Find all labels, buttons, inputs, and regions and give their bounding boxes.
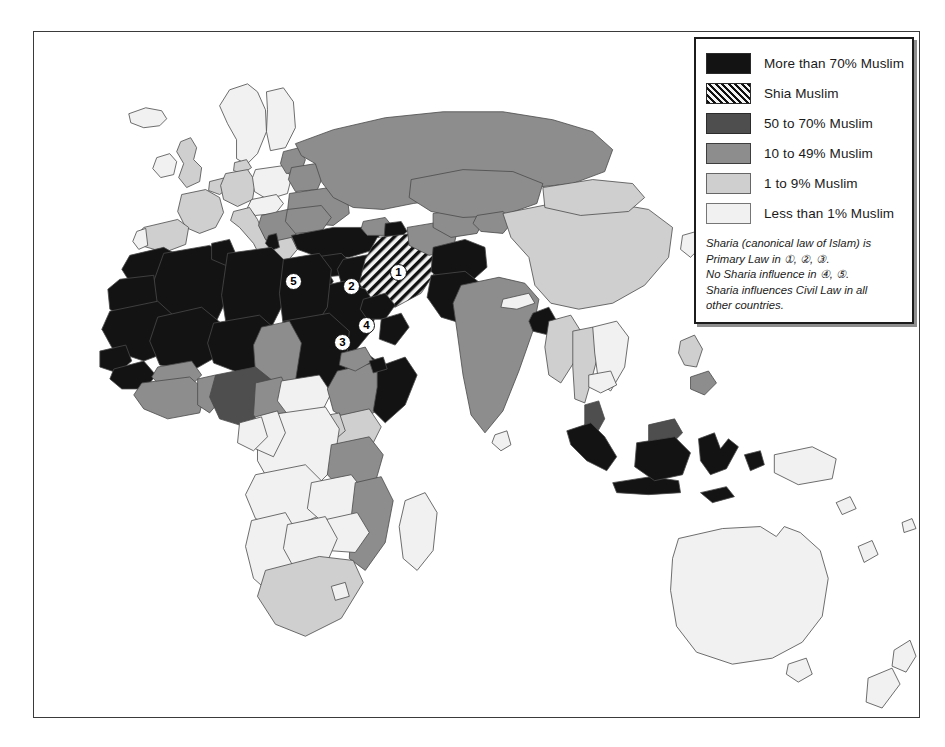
legend-row-50-to-70: 50 to 70% Muslim (706, 108, 902, 138)
legend-row-less-than-1: Less than 1% Muslim (706, 198, 902, 228)
map-marker-5[interactable]: 5 (285, 273, 302, 290)
legend-row-1-to-9: 1 to 9% Muslim (706, 168, 902, 198)
legend-row-more-than-70: More than 70% Muslim (706, 48, 902, 78)
map-marker-3[interactable]: 3 (334, 334, 351, 351)
legend-label-10-to-49: 10 to 49% Muslim (764, 146, 873, 161)
legend-swatch-shia (706, 83, 751, 104)
map-frame: 1 2 3 4 5 More than 70% Muslim Shia Musl… (33, 31, 920, 718)
legend-label-50-to-70: 50 to 70% Muslim (764, 116, 873, 131)
legend-note-line-1: Sharia (canonical law of Islam) is (706, 236, 902, 252)
map-marker-1[interactable]: 1 (390, 264, 407, 281)
legend-row-10-to-49: 10 to 49% Muslim (706, 138, 902, 168)
map-marker-4[interactable]: 4 (358, 317, 375, 334)
legend-note: Sharia (canonical law of Islam) is Prima… (706, 234, 902, 314)
region-mongolia (543, 180, 645, 216)
legend-swatch-50-to-70 (706, 113, 751, 134)
region-germany (221, 170, 256, 207)
legend-note-line-5: other countries. (706, 298, 902, 314)
legend-swatch-1-to-9 (706, 173, 751, 194)
map-legend: More than 70% Muslim Shia Muslim 50 to 7… (694, 37, 914, 324)
legend-swatch-more-than-70 (706, 53, 751, 74)
legend-label-less-than-1: Less than 1% Muslim (764, 206, 894, 221)
map-marker-2[interactable]: 2 (343, 278, 360, 295)
map-page: 1 2 3 4 5 More than 70% Muslim Shia Musl… (0, 0, 945, 747)
legend-swatch-less-than-1 (706, 203, 751, 224)
legend-note-line-4: Sharia influences Civil Law in all (706, 283, 902, 299)
legend-swatch-10-to-49 (706, 143, 751, 164)
legend-label-more-than-70: More than 70% Muslim (764, 56, 904, 71)
legend-label-shia: Shia Muslim (764, 86, 839, 101)
legend-note-line-3: No Sharia influence in ④, ⑤. (706, 267, 902, 283)
legend-row-shia: Shia Muslim (706, 78, 902, 108)
legend-label-1-to-9: 1 to 9% Muslim (764, 176, 858, 191)
legend-note-line-2: Primary Law in ①, ②, ③. (706, 252, 902, 268)
